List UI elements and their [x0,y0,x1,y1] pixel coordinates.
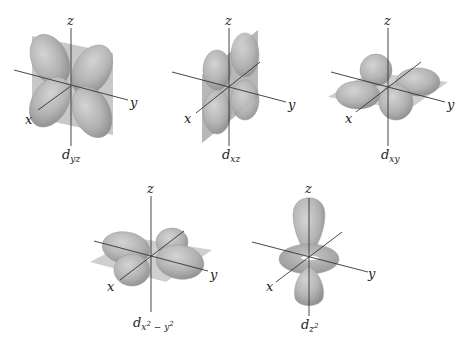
orbital-dx2-y2: z y x dx2 − y2 [80,170,260,348]
axes [172,28,286,146]
orbital-dxz: z y x dxz [150,0,300,170]
z-axis-label: z [67,14,74,27]
z-axis-label: z [225,14,232,27]
x-axis-label: x [107,280,114,293]
x-axis-label: x [266,280,273,293]
x-axis-label: x [184,112,191,125]
orbital-label: dyz [62,148,80,164]
dz2-diagram [240,170,400,348]
orbital-dyz: z y x dyz [0,0,150,170]
y-axis-label: y [130,96,137,109]
orbital-label: dz2 [301,318,319,334]
orbital-dxy: z y x dxy [300,0,467,170]
x-axis-label: x [345,112,352,125]
z-axis-label: z [305,182,312,195]
y-axis-label: y [288,98,295,111]
x-axis-label: x [25,113,32,126]
z-axis-label: z [384,14,391,27]
y-axis-label: y [210,268,217,281]
orbital-label: dx2 − y2 [133,316,174,332]
z-axis-label: z [147,182,154,195]
y-axis-label: y [447,98,454,111]
dyz-diagram [0,0,150,170]
orbital-label: dxy [381,148,400,164]
orbital-label: dxz [222,148,240,164]
y-axis-label: y [368,267,375,280]
orbital-dz2: z y x dz2 [240,170,400,348]
